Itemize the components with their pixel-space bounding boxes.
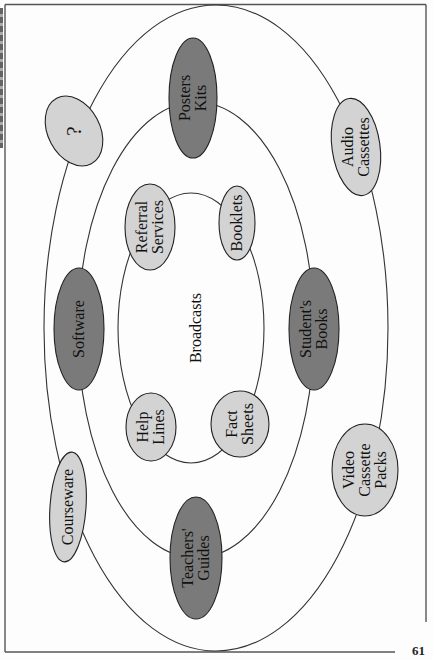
node-question [34,86,115,176]
concentric-resource-diagram [0,0,433,660]
node-fact-sheets [211,391,269,457]
node-help-lines [126,393,176,461]
node-teachers-guides [170,497,222,619]
nodes-group [34,38,398,619]
middle-ring [78,102,314,558]
node-referral-services [125,184,175,270]
node-posters-kits [169,38,217,158]
node-software [54,268,104,390]
page-number: 61 [412,643,425,659]
node-students-books [289,268,339,390]
node-booklets [219,186,255,260]
node-video-cassette-packs [332,424,398,516]
node-courseware [46,451,90,563]
node-audio-cassettes [325,95,386,199]
document-page: Broadcasts Posters Kits?Audio CassettesR… [0,0,433,660]
